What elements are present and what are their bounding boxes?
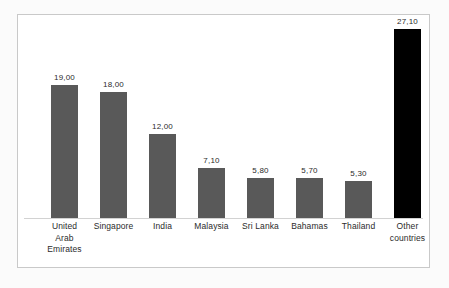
bar-value-label: 18,00 [103,80,124,89]
category-label: Malaysia [187,221,236,233]
category-label: Thailand [334,221,383,233]
bar-group[interactable]: 5,70 [285,15,334,218]
bar-group[interactable]: 12,00 [138,15,187,218]
category-label-line: Thailand [334,221,383,233]
bar-value-label: 5,70 [301,166,317,175]
bar-column: 18,00 [89,15,138,218]
category-label: Othercountries [383,221,432,244]
bar-value-label: 19,00 [54,73,75,82]
bar-rect[interactable] [149,134,176,218]
bar-group[interactable]: 18,00 [89,15,138,218]
category-label-line: United [40,221,89,233]
plot-area: 19,0018,0012,007,105,805,705,3027,10 Uni… [18,15,429,267]
category-label: India [138,221,187,233]
bar-rect[interactable] [345,181,372,218]
bar-series: 19,0018,0012,007,105,805,705,3027,10 [18,15,429,218]
bar-rect[interactable] [51,85,78,218]
bar-column: 12,00 [138,15,187,218]
bar-rect[interactable] [198,168,225,218]
chart-frame: 19,0018,0012,007,105,805,705,3027,10 Uni… [17,14,430,268]
category-label: Bahamas [285,221,334,233]
bar-column: 27,10 [383,15,432,218]
bar-group[interactable]: 27,10 [383,15,432,218]
bar-column: 19,00 [40,15,89,218]
bar-column: 5,70 [285,15,334,218]
category-axis-labels: UnitedArabEmiratesSingaporeIndiaMalaysia… [18,221,429,267]
category-label-line: countries [383,233,432,245]
category-label-line: Sri Lanka [236,221,285,233]
category-label-line: Emirates [40,244,89,256]
category-label: Singapore [89,221,138,233]
bar-column: 5,30 [334,15,383,218]
category-label: Sri Lanka [236,221,285,233]
category-label-line: Malaysia [187,221,236,233]
bar-rect[interactable] [100,92,127,218]
bar-group[interactable]: 7,10 [187,15,236,218]
bar-column: 7,10 [187,15,236,218]
bar-value-label: 5,80 [252,166,268,175]
category-label-line: Other [383,221,432,233]
bar-group[interactable]: 5,80 [236,15,285,218]
bar-column: 5,80 [236,15,285,218]
category-label-line: Bahamas [285,221,334,233]
bar-rect[interactable] [296,178,323,218]
category-label-line: Arab [40,233,89,245]
bar-group[interactable]: 19,00 [40,15,89,218]
category-axis-line [24,218,423,219]
category-label: UnitedArabEmirates [40,221,89,256]
category-label-line: Singapore [89,221,138,233]
category-label-line: India [138,221,187,233]
bar-rect[interactable] [394,29,421,218]
bar-value-label: 7,10 [203,156,219,165]
bar-value-label: 27,10 [397,17,418,26]
bar-group[interactable]: 5,30 [334,15,383,218]
bar-rect[interactable] [247,178,274,218]
bar-value-label: 5,30 [350,169,366,178]
bar-value-label: 12,00 [152,122,173,131]
